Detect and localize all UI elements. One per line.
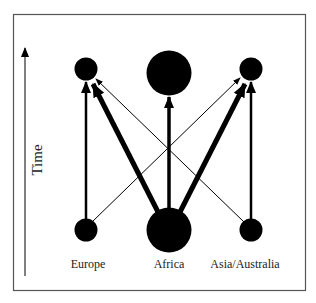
node-africa-later: [147, 51, 192, 96]
region-labels: Europe Africa Asia/Australia: [71, 257, 281, 271]
node-africa-earlier: [147, 208, 192, 253]
top-nodes: [75, 51, 263, 96]
edge-africa-to-europe: [93, 84, 158, 212]
edge-europe-to-asia: [92, 78, 240, 222]
migration-diagram: Time Europe Africa Asia/Australia: [0, 0, 316, 303]
node-europe-later: [75, 58, 98, 81]
bottom-nodes: [75, 208, 263, 253]
node-asia-earlier: [240, 219, 263, 242]
time-axis-label: Time: [29, 144, 45, 175]
node-asia-later: [240, 58, 263, 81]
label-africa: Africa: [154, 257, 185, 271]
thick-edges: [93, 84, 245, 212]
edge-africa-to-asia: [180, 84, 245, 212]
time-axis: Time: [25, 48, 45, 276]
node-europe-earlier: [75, 219, 98, 242]
label-asia-australia: Asia/Australia: [210, 257, 280, 271]
label-europe: Europe: [71, 257, 106, 271]
